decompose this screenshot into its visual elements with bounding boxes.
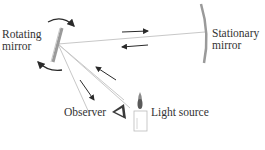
stationary-mirror-label-line1: Stationary	[212, 27, 259, 39]
observer-label: Observer	[64, 106, 106, 118]
diagram-graphics	[0, 0, 265, 150]
stationary-mirror-icon	[201, 4, 206, 63]
observer-eye-icon	[112, 104, 126, 119]
light-beams	[58, 32, 205, 115]
rotating-mirror-label-line2: mirror	[2, 40, 42, 52]
rotating-mirror-icon	[51, 28, 62, 62]
stationary-mirror-label-line2: mirror	[212, 39, 259, 51]
stationary-mirror-label: Stationary mirror	[212, 27, 259, 51]
rotating-mirror-label-line1: Rotating	[2, 28, 42, 40]
candle-icon	[134, 92, 147, 131]
light-source-label: Light source	[151, 106, 209, 118]
foucault-diagram: Rotating mirror Stationary mirror Observ…	[0, 0, 265, 150]
rotating-mirror-label: Rotating mirror	[2, 28, 42, 52]
